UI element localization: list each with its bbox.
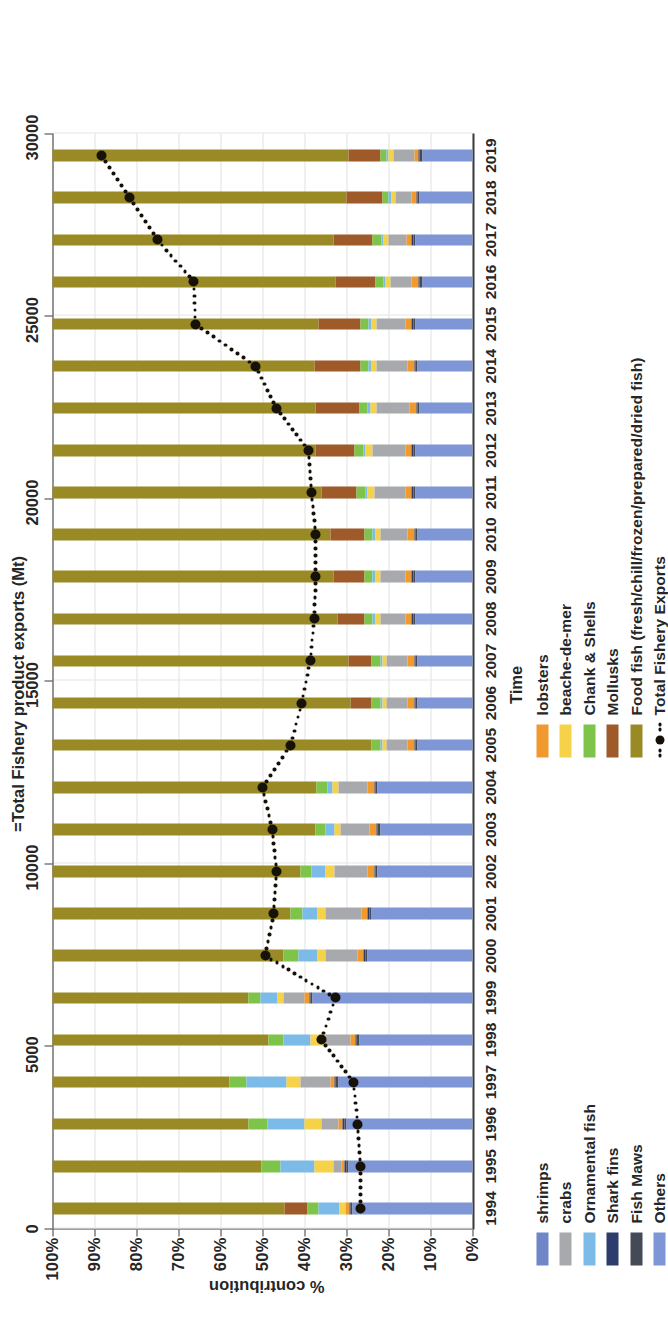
secondary-y-tick-label: 25000 xyxy=(22,297,41,343)
x-tick-label: 2004 xyxy=(481,766,499,808)
trend-line-dot xyxy=(298,708,302,712)
trend-line-marker xyxy=(330,992,340,1002)
legend-item[interactable]: Total Fishery Exports xyxy=(652,357,667,757)
y-tick-label: 80% xyxy=(126,1237,145,1297)
bar-segment xyxy=(419,191,472,203)
bar-stack xyxy=(52,1118,472,1130)
legend-dotted-line-icon xyxy=(653,724,665,757)
bar-segment xyxy=(307,1202,318,1214)
bar-segment xyxy=(268,1034,283,1046)
bar-stack xyxy=(52,1034,472,1046)
trend-line-dot xyxy=(308,476,312,480)
bar-stack xyxy=(52,191,472,203)
bar-segment xyxy=(248,1118,267,1130)
trend-line-dot xyxy=(304,978,308,982)
trend-line-dot xyxy=(312,518,316,522)
trend-line-dot xyxy=(272,904,276,908)
secondary-y-tick-mark xyxy=(44,863,52,864)
legend-item[interactable]: Chank & Shells xyxy=(581,357,596,757)
bar-stack xyxy=(52,1160,472,1172)
bar-segment xyxy=(371,739,379,751)
legend-label: Fish Maws xyxy=(627,1144,645,1223)
x-tick-label: 2007 xyxy=(481,639,499,681)
secondary-y-tick-mark xyxy=(44,498,52,499)
trend-line-dot xyxy=(274,876,278,880)
y-tick-label: 0% xyxy=(462,1237,481,1297)
trend-line-marker xyxy=(268,908,278,918)
trend-line-marker xyxy=(309,613,319,623)
bar-segment xyxy=(370,402,376,414)
bar-segment xyxy=(52,613,337,625)
bar-segment xyxy=(388,149,392,161)
bar-segment xyxy=(52,570,333,582)
legend-item[interactable]: Shark fins xyxy=(605,1104,620,1266)
trend-line-dot xyxy=(164,248,168,252)
trend-line-dot xyxy=(354,1108,358,1112)
trend-line-dot xyxy=(183,269,187,273)
trend-line-dot xyxy=(352,1087,356,1091)
bar-segment xyxy=(346,1118,472,1130)
trend-line-dot xyxy=(135,207,139,211)
bar-segment xyxy=(311,865,326,877)
bar-segment xyxy=(360,318,368,330)
legend-item[interactable]: shrimps xyxy=(534,1104,549,1266)
legend-item[interactable]: Fish Maws xyxy=(628,1104,643,1266)
trend-line-dot xyxy=(217,339,221,343)
trend-line-dot xyxy=(309,483,313,487)
trend-line-marker xyxy=(250,361,260,371)
trend-line-dot xyxy=(270,918,274,922)
trend-line-marker xyxy=(260,950,270,960)
legend-item[interactable]: Mollusks xyxy=(605,357,620,757)
bar-segment xyxy=(52,739,371,751)
legend-item[interactable]: Others xyxy=(652,1104,667,1266)
bar-segment xyxy=(415,234,472,246)
trend-line-dot xyxy=(286,422,290,426)
legend-item[interactable]: beache-de-mer xyxy=(558,357,573,757)
trend-line-dot xyxy=(355,1115,359,1119)
gridline-vertical xyxy=(52,132,472,133)
legend-swatch xyxy=(606,724,618,757)
bar-segment xyxy=(52,992,248,1004)
bar-segment xyxy=(340,823,369,835)
bar-segment xyxy=(314,1160,333,1172)
x-tick-label: 2016 xyxy=(481,260,499,302)
bar-segment xyxy=(350,1034,355,1046)
legend-item[interactable]: Food fish (fresh/chill/frozen/prepared/d… xyxy=(628,357,643,757)
y-tick-mark xyxy=(136,1229,137,1236)
bar-segment xyxy=(356,486,364,498)
trend-line-dot xyxy=(147,225,151,229)
bar-stack xyxy=(52,907,472,919)
bar-segment xyxy=(325,823,333,835)
legend-label: crabs xyxy=(556,1181,574,1223)
legend-label: lobsters xyxy=(533,654,551,715)
x-tick-label: 1999 xyxy=(481,976,499,1018)
trend-line-dot xyxy=(272,767,276,771)
bar-segment xyxy=(229,1076,246,1088)
trend-line-dot xyxy=(235,351,239,355)
bar-segment xyxy=(380,570,405,582)
legend-item[interactable]: lobsters xyxy=(534,357,549,757)
trend-line-dot xyxy=(107,165,111,169)
trend-line-dot xyxy=(302,687,306,691)
bar-segment xyxy=(382,191,388,203)
trend-line-dot xyxy=(301,694,305,698)
legend-item[interactable]: Ornamental fish xyxy=(581,1104,596,1266)
y-tick-mark xyxy=(304,1229,305,1236)
bar-segment xyxy=(417,697,472,709)
bar-segment xyxy=(318,318,360,330)
x-tick-label: 2006 xyxy=(481,682,499,724)
trend-line-dot xyxy=(312,610,316,614)
trend-line-dot xyxy=(313,581,317,585)
trend-line-dot xyxy=(356,1129,360,1133)
trend-line-dot xyxy=(331,1053,335,1057)
bar-segment xyxy=(357,950,363,962)
trend-line-dot xyxy=(298,975,302,979)
y-tick-mark xyxy=(52,1229,53,1236)
trend-line-dot xyxy=(273,890,277,894)
trend-line-dot xyxy=(274,862,278,866)
secondary-y-tick-mark xyxy=(44,315,52,316)
bar-segment xyxy=(407,360,413,372)
legend-item[interactable]: crabs xyxy=(558,1104,573,1266)
trend-line-dot xyxy=(268,394,272,398)
x-axis-title: Time xyxy=(506,665,525,703)
